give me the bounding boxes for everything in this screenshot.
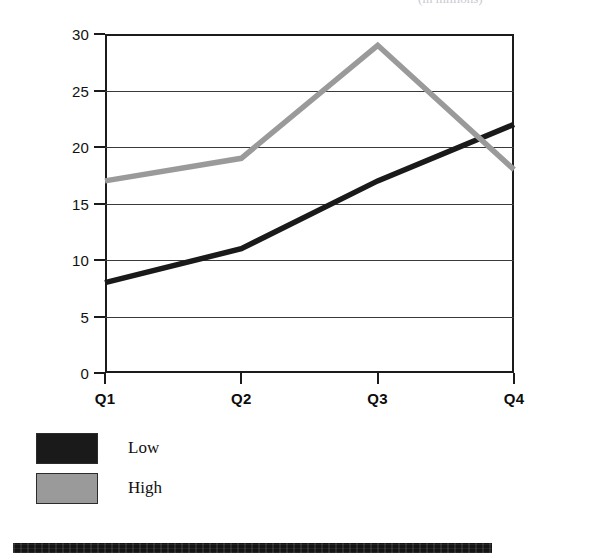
y-tick-label: 30 [31, 26, 89, 43]
gridline [105, 260, 514, 261]
y-tick-mark [94, 259, 105, 261]
gridline [105, 91, 514, 92]
y-tick-mark [94, 316, 105, 318]
x-tick-mark [240, 373, 242, 384]
gridline [105, 317, 514, 318]
chart-legend: Low High [36, 428, 296, 508]
legend-item-high: High [36, 468, 296, 508]
y-tick-label: 20 [31, 139, 89, 156]
legend-label-low: Low [128, 438, 159, 458]
y-tick-mark [94, 203, 105, 205]
legend-swatch-low [36, 433, 98, 464]
y-tick-mark [94, 146, 105, 148]
legend-item-low: Low [36, 428, 296, 468]
x-tick-label-q2: Q2 [211, 390, 271, 407]
x-tick-mark [377, 373, 379, 384]
y-tick-label: 10 [31, 252, 89, 269]
x-tick-label-q3: Q3 [348, 390, 408, 407]
gridline [105, 147, 514, 148]
y-tick-label: 5 [31, 308, 89, 325]
y-tick-label: 15 [31, 195, 89, 212]
legend-swatch-high [36, 473, 98, 504]
line-chart: 051015202530Q1Q2Q3Q4 [0, 0, 601, 420]
y-tick-label: 25 [31, 82, 89, 99]
page-rule-artifact [13, 543, 492, 553]
legend-label-high: High [128, 478, 162, 498]
y-tick-mark [94, 90, 105, 92]
x-tick-mark [104, 373, 106, 384]
y-tick-label: 0 [31, 365, 89, 382]
x-tick-mark [513, 373, 515, 384]
x-tick-label-q1: Q1 [75, 390, 135, 407]
gridline [105, 204, 514, 205]
x-tick-label-q4: Q4 [484, 390, 544, 407]
y-tick-mark [94, 33, 105, 35]
